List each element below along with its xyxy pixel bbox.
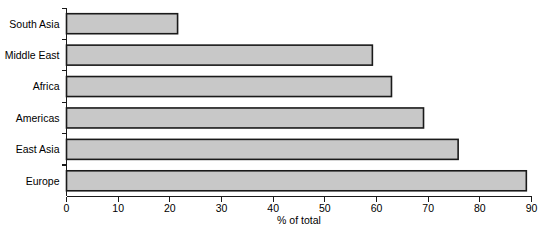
- x-axis-tick-label: 0: [64, 202, 70, 214]
- x-axis-tick-label: 50: [319, 202, 331, 214]
- category-label: South Asia: [9, 18, 59, 30]
- category-label: East Asia: [16, 143, 60, 155]
- bar: [67, 14, 178, 34]
- x-axis-tick-label: 40: [267, 202, 279, 214]
- x-axis-tick-label: 80: [474, 202, 486, 214]
- bar: [67, 108, 424, 128]
- bar: [67, 45, 373, 65]
- x-axis-tick-label: 90: [526, 202, 538, 214]
- bar: [67, 171, 527, 191]
- x-axis-tick-label: 70: [422, 202, 434, 214]
- category-label: Americas: [16, 112, 60, 124]
- category-label: Europe: [26, 175, 60, 187]
- x-axis-tick-label: 20: [164, 202, 176, 214]
- x-axis-tick-label: 30: [216, 202, 228, 214]
- x-axis-title: % of total: [277, 214, 321, 226]
- bar: [67, 77, 392, 97]
- bar: [67, 139, 459, 159]
- chart-canvas: South AsiaMiddle EastAfricaAmericasEast …: [0, 0, 549, 239]
- category-label: Africa: [33, 80, 60, 92]
- x-axis-tick-label: 10: [112, 202, 124, 214]
- bar-chart: South AsiaMiddle EastAfricaAmericasEast …: [0, 0, 549, 239]
- category-label: Middle East: [5, 49, 60, 61]
- x-axis-tick-label: 60: [371, 202, 383, 214]
